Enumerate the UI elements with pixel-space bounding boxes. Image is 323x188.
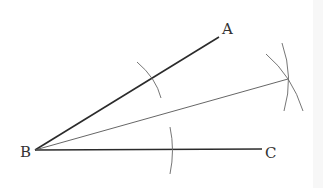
- ray-bc: [35, 149, 262, 150]
- bisector-line: [35, 79, 288, 150]
- arc-intersection-2: [266, 54, 303, 111]
- arc-on-bc: [170, 127, 173, 174]
- ray-ba: [35, 37, 219, 150]
- label-b: B: [20, 143, 31, 161]
- label-a: A: [221, 20, 233, 38]
- arc-intersection-1: [282, 43, 289, 111]
- angle-bisector-diagram: A B C: [0, 0, 323, 188]
- label-c: C: [265, 144, 276, 162]
